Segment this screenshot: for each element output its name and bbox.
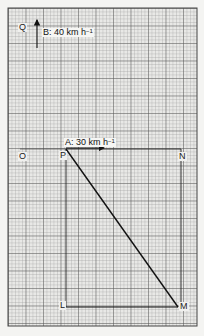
graph-paper [0, 0, 204, 336]
point-o-label: O [18, 152, 27, 161]
point-n-label: N [178, 152, 187, 161]
vector-a-exponent: −1 [108, 138, 115, 144]
grid-major [8, 8, 197, 326]
vector-b-exponent: −1 [86, 28, 93, 34]
point-p-label: P [59, 151, 67, 160]
vector-a-text: A: 30 km h [65, 137, 108, 147]
point-l-label: L [59, 301, 66, 310]
point-m-label: M [179, 302, 189, 311]
vector-b-text: B: 40 km h [43, 27, 86, 37]
vector-b-label: B: 40 km h−1 [42, 28, 94, 37]
vector-a-label: A: 30 km h−1 [64, 138, 116, 147]
point-q-label: Q [18, 23, 27, 32]
